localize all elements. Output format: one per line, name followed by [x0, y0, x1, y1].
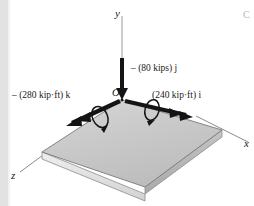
couple-x-label: (240 kip·ft) i	[152, 91, 201, 101]
couple-z-label: – (280 kip·ft) k	[12, 91, 70, 101]
page-corner-glyph: C	[243, 10, 250, 20]
force-y-label: – (80 kips) j	[131, 64, 177, 74]
diagram-canvas	[0, 0, 254, 206]
couple-z-arrowhead-inner	[76, 112, 91, 122]
x-axis-label: x	[244, 138, 249, 149]
origin-label: O	[112, 88, 120, 99]
z-axis-label: z	[11, 170, 15, 181]
origin-point	[121, 99, 124, 102]
plate	[42, 100, 222, 201]
y-axis-label: y	[115, 8, 120, 19]
mechanics-figure: y x z O – (80 kips) j – (280 kip·ft) k (…	[0, 0, 254, 206]
plate-top-face	[42, 100, 222, 187]
